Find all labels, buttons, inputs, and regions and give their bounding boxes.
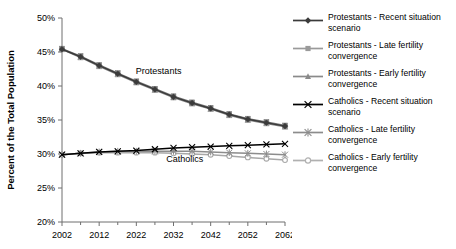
legend-item[interactable]: Catholics - Recent situation scenario	[293, 96, 456, 117]
legend-item[interactable]: Catholics - Early fertility convergence	[293, 152, 456, 173]
line-chart-svg: Percent of the Total Population50%45%40%…	[0, 0, 292, 249]
legend-item-label: Protestants - Late fertility convergence	[328, 40, 423, 61]
y-tick-label: 25%	[37, 183, 55, 193]
legend-item-label: Catholics - Early fertility convergence	[328, 152, 418, 173]
x-tick-label: 2062	[275, 230, 292, 240]
chart-legend: Protestants - Recent situation scenarioP…	[293, 12, 456, 180]
series-group	[60, 46, 288, 128]
x-tick-label: 2052	[238, 230, 258, 240]
marker-circle	[283, 158, 288, 163]
legend-item-label: Catholics - Recent situation scenario	[328, 96, 433, 117]
legend-circle-marker-icon	[293, 153, 323, 166]
legend-item[interactable]: Protestants - Recent situation scenario	[293, 12, 456, 33]
x-tick-label: 2012	[89, 230, 109, 240]
series-line	[62, 49, 285, 127]
legend-cross-marker-icon	[293, 97, 323, 110]
y-tick-label: 40%	[37, 81, 55, 91]
y-tick-label: 45%	[37, 47, 55, 57]
series-line	[62, 49, 285, 126]
legend-item-label: Protestants - Recent situation scenario	[328, 12, 441, 33]
series-group	[59, 46, 288, 129]
chart-page: Percent of the Total Population50%45%40%…	[0, 0, 456, 249]
legend-item[interactable]: Protestants - Late fertility convergence	[293, 40, 456, 61]
series-annotation: Catholics	[166, 154, 204, 164]
legend-diamond-marker-icon	[293, 13, 323, 26]
legend-item[interactable]: Catholics - Late fertility convergence	[293, 124, 456, 145]
y-tick-label: 20%	[37, 217, 55, 227]
x-tick-label: 2042	[201, 230, 221, 240]
y-tick-label: 30%	[37, 149, 55, 159]
y-axis-title: Percent of the Total Population	[5, 50, 16, 190]
legend-item-label: Protestants - Early fertility convergenc…	[328, 68, 426, 89]
chart-plot-area: Percent of the Total Population50%45%40%…	[0, 0, 292, 249]
legend-asterisk-marker-icon	[293, 125, 323, 138]
series-annotation: Protestants	[136, 66, 182, 76]
y-tick-label: 50%	[37, 13, 55, 23]
x-tick-label: 2032	[163, 230, 183, 240]
legend-triangle-marker-icon	[293, 69, 323, 82]
y-tick-label: 35%	[37, 115, 55, 125]
x-tick-label: 2002	[52, 230, 72, 240]
legend-item-label: Catholics - Late fertility convergence	[328, 124, 415, 145]
series-line	[62, 49, 285, 126]
x-tick-label: 2022	[126, 230, 146, 240]
series-group	[59, 46, 288, 128]
legend-square-marker-icon	[293, 41, 323, 54]
legend-item[interactable]: Protestants - Early fertility convergenc…	[293, 68, 456, 89]
